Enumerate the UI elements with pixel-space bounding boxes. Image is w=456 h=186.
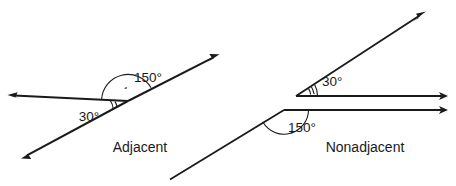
adjacent-30-arc [110,100,113,109]
nonadjacent-30-arc [315,85,318,96]
nonadjacent-upper-diagonal-ray [296,15,420,96]
adjacent-lower-left-arrow-icon [21,151,33,159]
nonadjacent-30-tick-1 [309,89,311,95]
adjacent-150-label: 150° [134,70,162,85]
diagram-nonadjacent: 30° 150° Nonadjacent [170,12,448,180]
adjacent-30-label: 30° [79,109,99,124]
adjacent-upper-right-arrow-icon [208,54,220,62]
nonadjacent-30-label: 30° [322,74,342,89]
adjacent-caption: Adjacent [113,139,168,155]
geometry-canvas: 150° 30° Adjacent 30° [0,0,456,186]
nonadjacent-150-label: 150° [288,120,316,135]
diagram-adjacent: 150° 30° Adjacent [8,54,220,159]
nonadjacent-caption: Nonadjacent [326,139,405,155]
nonadjacent-30-tick-2 [312,87,314,93]
adjacent-left-horizontal-ray [14,95,128,101]
adjacent-30-tick-1 [115,102,117,107]
nonadjacent-lower-diagonal-ray [170,110,284,180]
angles-figure: 150° 30° Adjacent 30° [0,0,456,186]
